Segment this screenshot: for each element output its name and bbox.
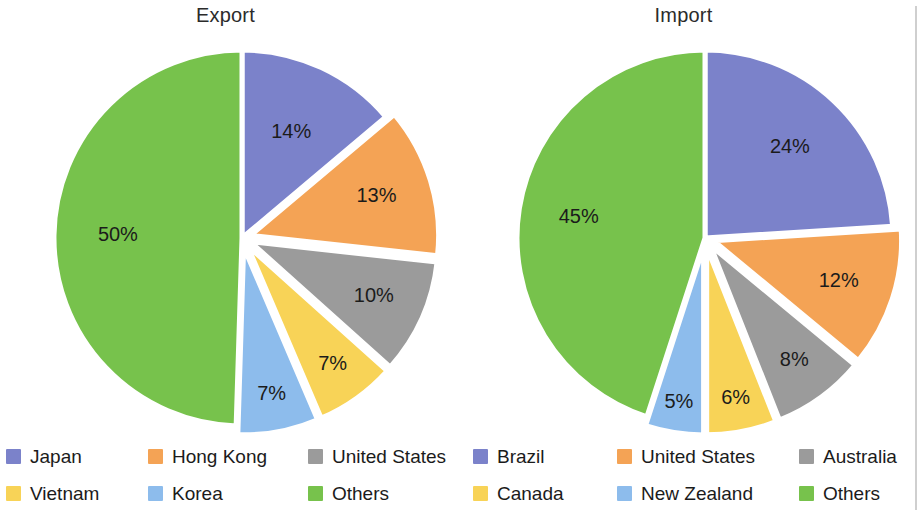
export-chart-panel: Export 14%13%10%7%7%50% Japan Hong Kong	[0, 0, 451, 516]
legend-swatch-icon	[308, 486, 323, 501]
legend-label: Canada	[497, 484, 564, 503]
legend-item-others[interactable]: Others	[799, 474, 880, 512]
pie-slice-value-label: 8%	[780, 348, 809, 370]
legend-label: Korea	[172, 484, 223, 503]
legend-label: Japan	[30, 447, 82, 466]
legend-item-new-zealand[interactable]: New Zealand	[617, 474, 799, 512]
import-legend-row-1: Brazil United States Australia	[451, 437, 902, 475]
legend-item-united-states[interactable]: United States	[308, 437, 446, 475]
legend-item-korea[interactable]: Korea	[148, 474, 308, 512]
pie-slice-value-label: 5%	[664, 390, 693, 412]
pie-slice-value-label: 14%	[271, 120, 311, 142]
legend-swatch-icon	[799, 449, 814, 464]
import-legend-row-2: Canada New Zealand Others	[451, 474, 902, 512]
pie-slice-value-label: 6%	[721, 386, 750, 408]
legend-item-canada[interactable]: Canada	[473, 474, 617, 512]
import-chart-title: Import	[451, 4, 902, 27]
pie-slice-value-label: 13%	[356, 184, 396, 206]
legend-item-australia[interactable]: Australia	[799, 437, 897, 475]
legend-item-brazil[interactable]: Brazil	[473, 437, 617, 475]
legend-swatch-icon	[617, 449, 632, 464]
legend-label: Others	[332, 484, 389, 503]
legend-item-vietnam[interactable]: Vietnam	[6, 474, 148, 512]
pie-slice-value-label: 10%	[354, 284, 394, 306]
export-legend-row-2: Vietnam Korea Others	[0, 474, 451, 512]
pie-slice-value-label: 7%	[257, 382, 286, 404]
pie-slice-value-label: 7%	[318, 352, 347, 374]
export-legend: Japan Hong Kong United States Vietnam	[0, 437, 451, 516]
legend-item-united-states[interactable]: United States	[617, 437, 799, 475]
legend-swatch-icon	[6, 449, 21, 464]
legend-swatch-icon	[6, 486, 21, 501]
export-pie-container: 14%13%10%7%7%50%	[0, 34, 451, 434]
legend-label: Others	[823, 484, 880, 503]
legend-swatch-icon	[148, 449, 163, 464]
export-chart-title: Export	[0, 4, 451, 27]
legend-item-others[interactable]: Others	[308, 474, 389, 512]
legend-swatch-icon	[473, 486, 488, 501]
import-pie-svg: 24%12%8%6%5%45%	[451, 34, 902, 434]
import-pie-container: 24%12%8%6%5%45%	[451, 34, 902, 434]
legend-label: Hong Kong	[172, 447, 267, 466]
legend-label: Vietnam	[30, 484, 99, 503]
legend-swatch-icon	[308, 449, 323, 464]
pie-slice-value-label: 50%	[98, 223, 138, 245]
pie-slice-value-label: 45%	[559, 205, 599, 227]
export-legend-row-1: Japan Hong Kong United States	[0, 437, 451, 475]
export-pie-svg: 14%13%10%7%7%50%	[0, 34, 451, 434]
legend-swatch-icon	[148, 486, 163, 501]
import-pie-slices	[517, 50, 902, 434]
legend-label: Australia	[823, 447, 897, 466]
pie-slice-value-label: 24%	[770, 135, 810, 157]
pie-slice-value-label: 12%	[819, 269, 859, 291]
import-legend: Brazil United States Australia Canada	[451, 437, 902, 516]
legend-swatch-icon	[799, 486, 814, 501]
import-chart-panel: Import 24%12%8%6%5%45% Brazil United Sta…	[451, 0, 902, 516]
legend-label: United States	[641, 447, 755, 466]
legend-swatch-icon	[617, 486, 632, 501]
legend-label: United States	[332, 447, 446, 466]
legend-label: Brazil	[497, 447, 545, 466]
pie-slice[interactable]	[54, 50, 242, 426]
legend-item-hong-kong[interactable]: Hong Kong	[148, 437, 308, 475]
legend-label: New Zealand	[641, 484, 753, 503]
legend-swatch-icon	[473, 449, 488, 464]
legend-item-japan[interactable]: Japan	[6, 437, 148, 475]
